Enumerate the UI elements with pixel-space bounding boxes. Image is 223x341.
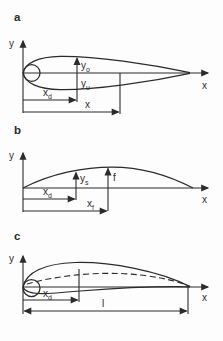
panel-b-x-axis-label: x — [202, 194, 207, 205]
panel-c: c y x xd l — [9, 230, 208, 314]
panel-a-upper-ordinate-label: yo — [81, 60, 90, 73]
panel-a-y-axis-label: y — [9, 38, 14, 49]
panel-a-upper-surface — [23, 56, 190, 73]
panel-c-x-axis-label: x — [202, 292, 207, 303]
panel-c-upper-surface — [23, 262, 190, 287]
panel-b-f-label: f — [113, 172, 116, 183]
panel-c-y-axis-label: y — [9, 253, 14, 264]
panel-b-ys-label: ys — [80, 173, 89, 186]
panel-c-xd-label: xd — [43, 288, 52, 301]
panel-b-label: b — [14, 124, 21, 136]
panel-a: a y x yo yu xd x — [9, 11, 208, 114]
panel-c-label: c — [14, 230, 21, 242]
panel-a-x-axis-label: x — [202, 80, 207, 91]
panel-a-label: a — [14, 11, 21, 23]
panel-a-lower-surface — [23, 73, 190, 90]
panel-b: b y x ys f xd xf — [9, 124, 208, 212]
figure-canvas: a y x yo yu xd x b y x ys — [0, 0, 223, 341]
panel-a-x-dimension-label: x — [85, 99, 90, 110]
panel-c-leading-edge-circle — [23, 280, 40, 297]
panel-c-chord-label: l — [102, 298, 104, 309]
figure-airfoil-geometry: a y x yo yu xd x b y x ys — [0, 0, 223, 341]
panel-b-y-axis-label: y — [9, 150, 14, 161]
panel-a-lower-ordinate-label: yu — [81, 78, 90, 91]
panel-c-camber-line-dashed — [27, 273, 190, 286]
panel-b-xf-label: xf — [87, 198, 94, 211]
